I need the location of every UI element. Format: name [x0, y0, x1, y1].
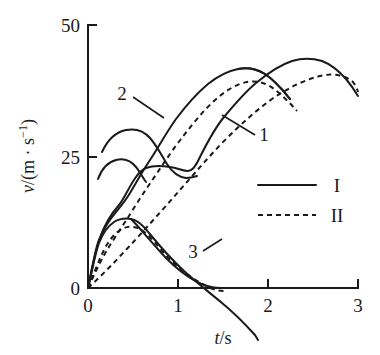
curve-1-dashed	[88, 75, 358, 288]
x-tick-label-3: 3	[353, 295, 363, 316]
curve-label-3: 3	[188, 241, 198, 262]
curve-label-1: 1	[259, 124, 269, 145]
x-tick-label-1: 1	[173, 295, 183, 316]
x-axis-title-group: t/s	[214, 328, 231, 348]
legend-label-I: I	[334, 175, 340, 196]
curve-3-dashed	[88, 227, 225, 291]
x-tick-label-0: 0	[83, 295, 93, 316]
curve-label-2-leader	[133, 97, 164, 118]
chart-figure: 50 25 0 0 1 2 3 t/s v/(m · s−1)	[0, 0, 380, 355]
curve-label-2: 2	[117, 83, 127, 104]
y-tick-label-50: 50	[61, 15, 80, 36]
curves-group	[88, 59, 358, 340]
x-tick-labels: 0 1 2 3	[83, 295, 363, 316]
velocity-time-chart: 50 25 0 0 1 2 3 t/s v/(m · s−1)	[0, 0, 380, 355]
y-tick-label-0: 0	[71, 278, 81, 299]
y-axis-title: v/(m · s−1)	[16, 119, 39, 193]
y-tick-labels: 50 25 0	[61, 15, 80, 299]
y-tick-label-25: 25	[61, 147, 80, 168]
y-axis-title-group: v/(m · s−1)	[16, 119, 39, 193]
x-tick-label-2: 2	[263, 295, 273, 316]
legend: I II	[258, 175, 343, 226]
legend-label-II: II	[331, 205, 344, 226]
curve-label-3-group: 3	[188, 239, 222, 262]
curve-label-1-leader	[222, 115, 255, 135]
curve-label-3-leader	[203, 239, 222, 251]
curve-label-2-group: 2	[117, 83, 164, 118]
curve-label-1-group: 1	[222, 115, 269, 145]
x-axis-title: t/s	[214, 328, 231, 348]
